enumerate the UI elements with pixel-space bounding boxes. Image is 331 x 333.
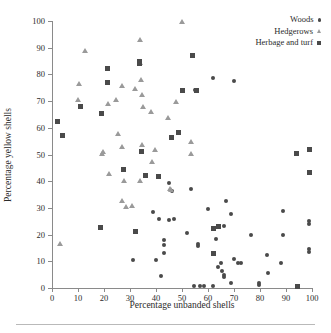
- data-point-hedgerows: [137, 178, 143, 183]
- data-point-hedgerows: [100, 149, 106, 154]
- data-point-herbage: [307, 147, 312, 152]
- data-point-herbage: [55, 119, 60, 124]
- y-axis-tick: [48, 21, 52, 22]
- data-point-woods: [206, 207, 210, 211]
- data-point-herbage: [307, 170, 312, 175]
- data-point-hedgerows: [106, 171, 112, 176]
- data-point-hedgerows: [129, 203, 135, 208]
- data-point-hedgerows: [119, 83, 125, 88]
- data-point-hedgerows: [75, 97, 81, 102]
- y-axis-tick-label: 90: [37, 43, 46, 53]
- x-axis-tick: [208, 288, 209, 292]
- y-axis-tick-label: 40: [37, 176, 46, 186]
- footer-rule: [16, 324, 315, 325]
- data-point-woods: [157, 217, 161, 221]
- data-point-woods: [162, 243, 166, 247]
- data-point-hedgerows: [148, 109, 154, 114]
- y-axis-tick-label: 0: [41, 283, 45, 293]
- data-point-woods: [154, 258, 158, 262]
- data-point-hedgerows: [119, 144, 125, 149]
- data-point-herbage: [156, 174, 161, 179]
- data-point-herbage: [60, 133, 65, 138]
- x-axis-tick: [156, 288, 157, 292]
- data-point-hedgerows: [149, 159, 155, 164]
- y-axis-tick: [48, 181, 52, 182]
- legend-item-hedgerows: Hedgerows: [255, 26, 321, 38]
- data-point-woods: [307, 222, 311, 226]
- data-point-woods: [131, 258, 135, 262]
- data-point-hedgerows: [57, 241, 63, 246]
- y-axis-label: Percentage yellow shells: [3, 108, 13, 202]
- y-axis-tick-label: 100: [32, 16, 45, 26]
- legend-label: Herbage and turf: [255, 37, 313, 49]
- data-point-herbage: [169, 135, 174, 140]
- data-point-herbage: [194, 88, 199, 93]
- data-point-woods: [202, 284, 206, 288]
- data-point-woods: [249, 233, 253, 237]
- y-axis-tick: [48, 101, 52, 102]
- data-point-woods: [224, 199, 228, 203]
- data-point-woods: [281, 209, 285, 213]
- data-point-herbage: [139, 149, 144, 154]
- data-point-herbage: [121, 167, 126, 172]
- data-point-hedgerows: [105, 101, 111, 106]
- data-point-woods: [185, 231, 189, 235]
- chart-legend: WoodsHedgerowsHerbage and turf: [255, 14, 321, 49]
- y-axis-tick-label: 60: [37, 123, 46, 133]
- data-point-woods: [232, 257, 236, 261]
- y-axis-tick: [48, 261, 52, 262]
- data-point-herbage: [78, 104, 83, 109]
- data-point-hedgerows: [179, 19, 185, 24]
- data-point-woods: [257, 281, 261, 285]
- data-point-herbage: [105, 66, 110, 71]
- data-point-woods: [232, 79, 236, 83]
- legend-marker-woods-icon: [318, 18, 322, 22]
- y-axis-tick: [48, 48, 52, 49]
- y-axis-tick-label: 20: [37, 230, 46, 240]
- data-point-woods: [159, 274, 163, 278]
- data-point-herbage: [294, 151, 299, 156]
- x-axis-tick: [52, 288, 53, 292]
- x-axis-tick: [104, 288, 105, 292]
- data-point-woods: [162, 251, 166, 255]
- data-point-herbage: [216, 224, 221, 229]
- y-axis-tick: [48, 128, 52, 129]
- x-axis-tick: [130, 288, 131, 292]
- data-point-herbage: [143, 173, 148, 178]
- data-point-herbage: [211, 251, 216, 256]
- data-point-herbage: [133, 229, 138, 234]
- data-point-hedgerows: [132, 86, 138, 91]
- data-point-hedgerows: [168, 187, 174, 192]
- data-point-woods: [307, 250, 311, 254]
- y-axis-tick: [48, 74, 52, 75]
- data-point-herbage: [137, 61, 142, 66]
- y-axis-tick-label: 50: [37, 150, 46, 160]
- data-point-hedgerows: [139, 142, 145, 147]
- data-point-woods: [167, 181, 171, 185]
- data-point-herbage: [190, 53, 195, 58]
- data-point-herbage: [98, 225, 103, 230]
- data-point-herbage: [180, 88, 185, 93]
- y-axis-tick: [48, 155, 52, 156]
- data-point-woods: [239, 261, 243, 265]
- data-point-hedgerows: [152, 147, 158, 152]
- data-point-woods: [222, 275, 226, 279]
- data-point-hedgerows: [76, 81, 82, 86]
- x-axis-label: Percentage unbanded shells: [52, 300, 312, 310]
- data-point-woods: [265, 253, 269, 257]
- data-point-woods: [281, 233, 285, 237]
- legend-item-herbage: Herbage and turf: [255, 37, 321, 49]
- y-axis-tick: [48, 208, 52, 209]
- y-axis-tick-label: 80: [37, 69, 46, 79]
- data-point-woods: [214, 237, 218, 241]
- data-point-woods: [266, 271, 270, 275]
- plot-area: 0102030405060708090100010203040506070809…: [52, 21, 312, 288]
- data-point-hedgerows: [119, 198, 125, 203]
- data-point-herbage: [105, 80, 110, 85]
- data-point-woods: [229, 212, 233, 216]
- legend-item-woods: Woods: [255, 14, 321, 26]
- data-point-woods: [189, 187, 193, 191]
- data-point-woods: [192, 284, 196, 288]
- data-point-hedgerows: [82, 48, 88, 53]
- x-axis-tick: [312, 288, 313, 292]
